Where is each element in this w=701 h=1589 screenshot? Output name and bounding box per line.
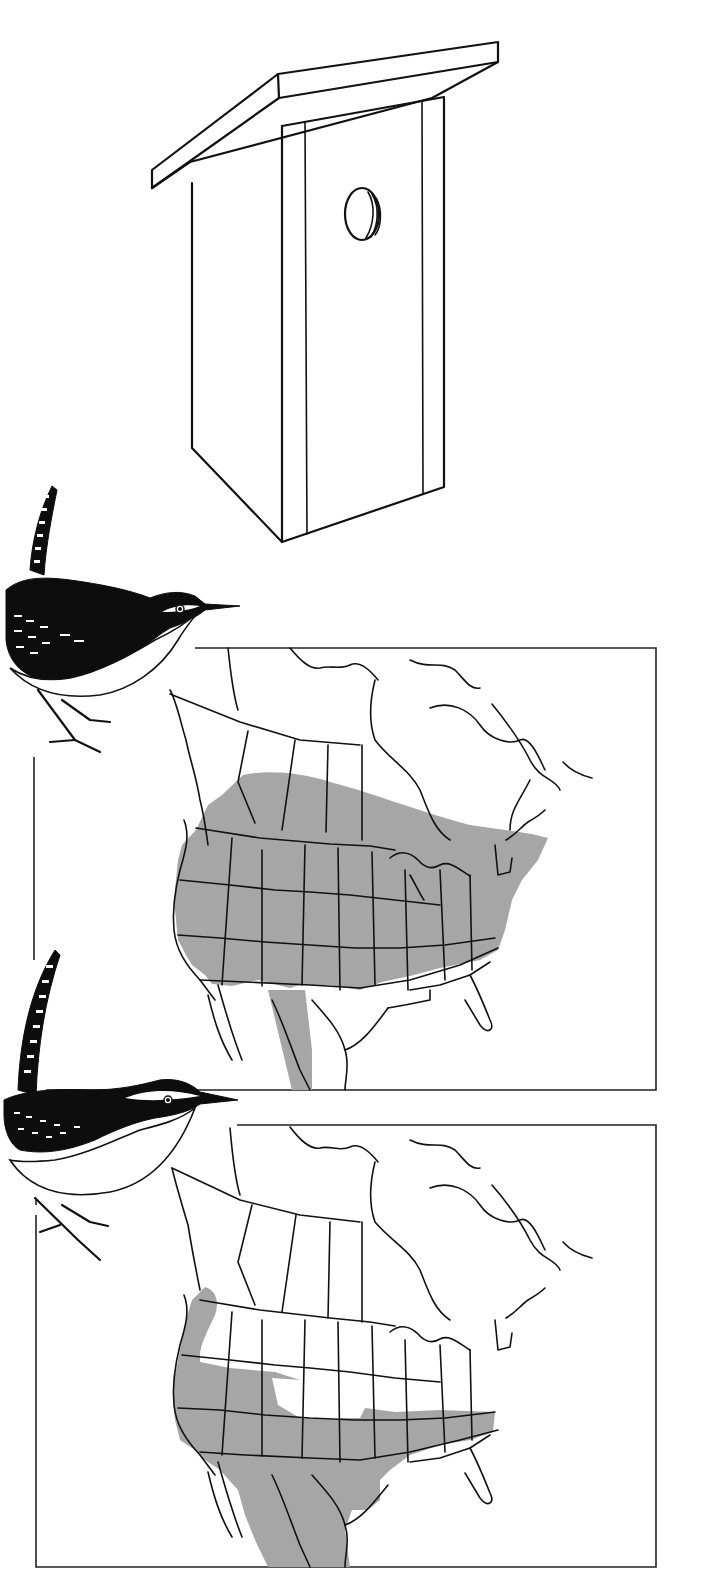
wren-icon [0, 0, 260, 1280]
range-shade-2 [173, 1287, 495, 1567]
wren-2-illustration [0, 0, 260, 1280]
